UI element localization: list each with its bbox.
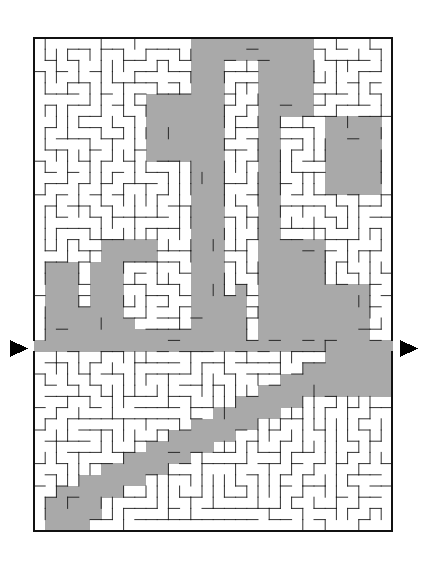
solution-cell bbox=[101, 307, 113, 319]
solution-cell bbox=[359, 351, 371, 363]
solution-cell bbox=[280, 105, 292, 117]
solution-cell bbox=[359, 183, 371, 195]
solution-cell bbox=[258, 295, 270, 307]
solution-cell bbox=[235, 318, 247, 330]
solution-cell bbox=[269, 183, 281, 195]
solution-cell bbox=[202, 83, 214, 95]
solution-cell bbox=[202, 94, 214, 106]
solution-cell bbox=[67, 340, 79, 352]
solution-cell bbox=[101, 340, 113, 352]
solution-cell bbox=[347, 363, 359, 375]
solution-cell bbox=[213, 228, 225, 240]
solution-cell bbox=[336, 183, 348, 195]
solution-cell bbox=[213, 239, 225, 251]
solution-cell bbox=[370, 116, 382, 128]
solution-cell bbox=[191, 161, 203, 173]
solution-cell bbox=[303, 340, 315, 352]
solution-cell bbox=[191, 295, 203, 307]
solution-cell bbox=[213, 318, 225, 330]
solution-cell bbox=[56, 318, 68, 330]
solution-cell bbox=[168, 340, 180, 352]
solution-cell bbox=[303, 94, 315, 106]
solution-cell bbox=[90, 284, 102, 296]
solution-cell bbox=[280, 71, 292, 83]
solution-cell bbox=[224, 407, 236, 419]
solution-cell bbox=[56, 295, 68, 307]
solution-cell bbox=[213, 150, 225, 162]
solution-cell bbox=[135, 329, 147, 341]
solution-cell bbox=[112, 486, 124, 498]
solution-cell bbox=[258, 396, 270, 408]
solution-cell bbox=[157, 441, 169, 453]
solution-cell bbox=[101, 463, 113, 475]
solution-cell bbox=[179, 452, 191, 464]
solution-cell bbox=[213, 161, 225, 173]
solution-cell bbox=[90, 497, 102, 509]
solution-cell bbox=[258, 340, 270, 352]
solution-cell bbox=[258, 83, 270, 95]
solution-cell bbox=[179, 94, 191, 106]
solution-cell bbox=[258, 60, 270, 72]
solution-cell bbox=[303, 307, 315, 319]
solution-cell bbox=[146, 127, 158, 139]
solution-cell bbox=[146, 105, 158, 117]
solution-cell bbox=[112, 251, 124, 263]
solution-cell bbox=[213, 262, 225, 274]
solution-cell bbox=[280, 251, 292, 263]
solution-cell bbox=[213, 419, 225, 431]
solution-cell bbox=[258, 150, 270, 162]
solution-cell bbox=[191, 329, 203, 341]
solution-cell bbox=[90, 508, 102, 520]
solution-cell bbox=[280, 60, 292, 72]
solution-cell bbox=[325, 150, 337, 162]
solution-cell bbox=[213, 195, 225, 207]
solution-cell bbox=[213, 183, 225, 195]
solution-cell bbox=[336, 139, 348, 151]
solution-cell bbox=[56, 262, 68, 274]
solution-cell bbox=[146, 340, 158, 352]
solution-cell bbox=[191, 441, 203, 453]
solution-cell bbox=[213, 206, 225, 218]
solution-cell bbox=[336, 363, 348, 375]
solution-cell bbox=[370, 127, 382, 139]
solution-cell bbox=[202, 38, 214, 50]
solution-cell bbox=[291, 307, 303, 319]
solution-cell bbox=[157, 127, 169, 139]
solution-cell bbox=[303, 38, 315, 50]
solution-cell bbox=[79, 519, 91, 531]
solution-cell bbox=[381, 351, 393, 363]
solution-cell bbox=[258, 183, 270, 195]
solution-cell bbox=[258, 49, 270, 61]
solution-cell bbox=[191, 38, 203, 50]
solution-cell bbox=[325, 307, 337, 319]
solution-cell bbox=[291, 385, 303, 397]
solution-cell bbox=[381, 363, 393, 375]
solution-cell bbox=[213, 217, 225, 229]
solution-cell bbox=[269, 49, 281, 61]
solution-cell bbox=[202, 318, 214, 330]
solution-cell bbox=[224, 295, 236, 307]
solution-cell bbox=[291, 60, 303, 72]
solution-cell bbox=[101, 295, 113, 307]
solution-cell bbox=[213, 430, 225, 442]
solution-cell bbox=[112, 262, 124, 274]
solution-cell bbox=[146, 251, 158, 263]
solution-cell bbox=[303, 83, 315, 95]
solution-cell bbox=[56, 519, 68, 531]
solution-cell bbox=[123, 251, 135, 263]
solution-cell bbox=[45, 262, 57, 274]
solution-cell bbox=[314, 239, 326, 251]
solution-cell bbox=[56, 486, 68, 498]
solution-cell bbox=[101, 239, 113, 251]
solution-cell bbox=[336, 284, 348, 296]
solution-cell bbox=[347, 183, 359, 195]
solution-cell bbox=[202, 228, 214, 240]
solution-cell bbox=[235, 396, 247, 408]
solution-cell bbox=[213, 172, 225, 184]
solution-cell bbox=[112, 475, 124, 487]
solution-cell bbox=[168, 430, 180, 442]
solution-cell bbox=[269, 251, 281, 263]
solution-cell bbox=[325, 329, 337, 341]
solution-cell bbox=[280, 83, 292, 95]
solution-cell bbox=[280, 295, 292, 307]
